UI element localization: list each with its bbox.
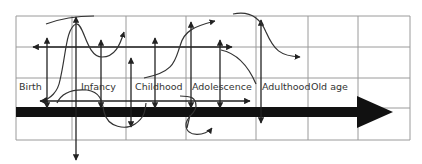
stage-label-birth: Birth xyxy=(19,82,42,92)
stage-label-adolescence: Adolescence xyxy=(192,82,252,92)
grid xyxy=(16,16,410,140)
stage-label-childhood: Childhood xyxy=(135,82,183,92)
stage-label-infancy: Infancy xyxy=(81,82,116,92)
stage-label-adulthood: Adulthood xyxy=(262,82,310,92)
stage-label-old-age: Old age xyxy=(311,82,348,92)
